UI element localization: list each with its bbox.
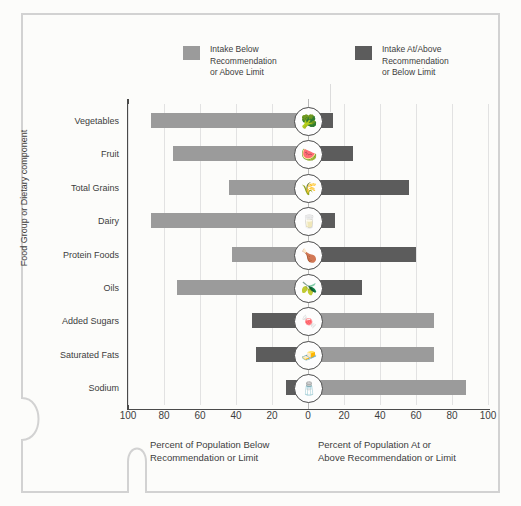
x-tick-label: 40: [366, 410, 394, 421]
bar-row: 🥛: [128, 204, 488, 237]
y-axis-title: Food Group or Dietary component: [19, 68, 29, 328]
bar-right-total-grains: [308, 180, 409, 195]
y-label-fruit: Fruit: [101, 149, 119, 159]
y-label-protein-foods: Protein Foods: [63, 250, 119, 260]
legend-item-intake-at-above: Intake At/Above Recommendation or Below …: [355, 44, 449, 79]
saturated-fats-icon: 🧈: [294, 341, 323, 370]
x-caption-left: Percent of Population Below Recommendati…: [150, 438, 269, 464]
x-tick-label: 20: [258, 410, 286, 421]
chart-frame: Intake Below Recommendation or Above Lim…: [0, 0, 521, 506]
x-tick-label: 100: [474, 410, 502, 421]
x-tick-label: 80: [150, 410, 178, 421]
protein-foods-icon: 🍗: [294, 241, 323, 270]
bar-left-oils: [177, 280, 308, 295]
y-label-dairy: Dairy: [98, 216, 119, 226]
legend-label-intake-at-above: Intake At/Above Recommendation or Below …: [382, 44, 449, 79]
bar-left-fruit: [173, 146, 308, 161]
x-tick-label: 60: [186, 410, 214, 421]
plot-area: 🥦🍉🌾🥛🍗🫒🍬🧈🧂: [128, 104, 488, 405]
bar-left-dairy: [151, 213, 308, 228]
x-tick-label: 0: [294, 410, 322, 421]
bar-row: 🍗: [128, 238, 488, 271]
legend-swatch-dark: [355, 46, 372, 60]
y-label-total-grains: Total Grains: [71, 183, 119, 193]
bar-row: 🌾: [128, 171, 488, 204]
bar-row: 🍉: [128, 137, 488, 170]
bar-right-added-sugars: [308, 313, 434, 328]
bar-row: 🫒: [128, 271, 488, 304]
added-sugars-icon: 🍬: [294, 307, 323, 336]
y-label-saturated-fats: Saturated Fats: [60, 350, 119, 360]
legend-label-intake-below: Intake Below Recommendation or Above Lim…: [210, 44, 277, 79]
y-label-oils: Oils: [104, 283, 120, 293]
fruit-icon: 🍉: [294, 140, 323, 169]
bar-rows: 🥦🍉🌾🥛🍗🫒🍬🧈🧂: [128, 104, 488, 405]
y-label-added-sugars: Added Sugars: [62, 316, 119, 326]
y-label-vegetables: Vegetables: [74, 116, 119, 126]
x-tick-label: 80: [438, 410, 466, 421]
vegetables-icon: 🥦: [294, 107, 323, 136]
bar-left-vegetables: [151, 113, 308, 128]
chart-legend: Intake Below Recommendation or Above Lim…: [0, 40, 521, 94]
bar-right-protein-foods: [308, 247, 416, 262]
bar-row: 🥦: [128, 104, 488, 137]
legend-item-intake-below: Intake Below Recommendation or Above Lim…: [183, 44, 277, 79]
grains-icon: 🌾: [294, 174, 323, 203]
x-tick-label: 60: [402, 410, 430, 421]
x-tick-label: 40: [222, 410, 250, 421]
y-label-sodium: Sodium: [88, 383, 119, 393]
legend-swatch-light: [183, 46, 200, 60]
dairy-icon: 🥛: [294, 207, 323, 236]
sodium-icon: 🧂: [294, 374, 323, 403]
bar-right-saturated-fats: [308, 347, 434, 362]
x-tick-label: 20: [330, 410, 358, 421]
bar-row: 🧈: [128, 338, 488, 371]
bar-row: 🍬: [128, 304, 488, 337]
gridline: [488, 104, 489, 405]
x-tick-label: 100: [114, 410, 142, 421]
oils-icon: 🫒: [294, 274, 323, 303]
x-caption-right: Percent of Population At or Above Recomm…: [318, 438, 456, 464]
bar-right-sodium: [308, 380, 466, 395]
bar-row: 🧂: [128, 371, 488, 404]
